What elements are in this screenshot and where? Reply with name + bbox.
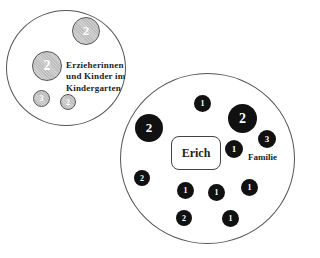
- family-node: 2: [228, 104, 257, 133]
- family-node: 1: [194, 95, 211, 112]
- family-node: 1: [225, 140, 243, 158]
- family-node: 2: [134, 170, 150, 186]
- erich-box: Erich: [171, 136, 221, 170]
- family-node: 1: [177, 182, 194, 199]
- kindergarten-label: Erzieherinnen und Kinder im Kindergarten: [66, 60, 125, 94]
- kindergarten-node: 2: [72, 17, 100, 45]
- family-label: Familie: [248, 152, 277, 163]
- kindergarten-node: 2: [60, 94, 76, 110]
- family-node: 2: [176, 210, 192, 226]
- kindergarten-label-line-3: Kindergarten: [66, 83, 125, 94]
- kindergarten-label-line-2: und Kinder im: [66, 71, 125, 82]
- kindergarten-node: 3: [33, 90, 50, 107]
- family-node: 1: [208, 184, 225, 201]
- erich-label: Erich: [182, 146, 211, 161]
- kindergarten-label-line-1: Erzieherinnen: [66, 60, 125, 71]
- kindergarten-node: 2: [32, 51, 62, 81]
- family-node: 1: [222, 210, 239, 227]
- family-node: 2: [135, 114, 163, 142]
- family-node: 3: [258, 130, 276, 148]
- family-node: 1: [241, 179, 258, 196]
